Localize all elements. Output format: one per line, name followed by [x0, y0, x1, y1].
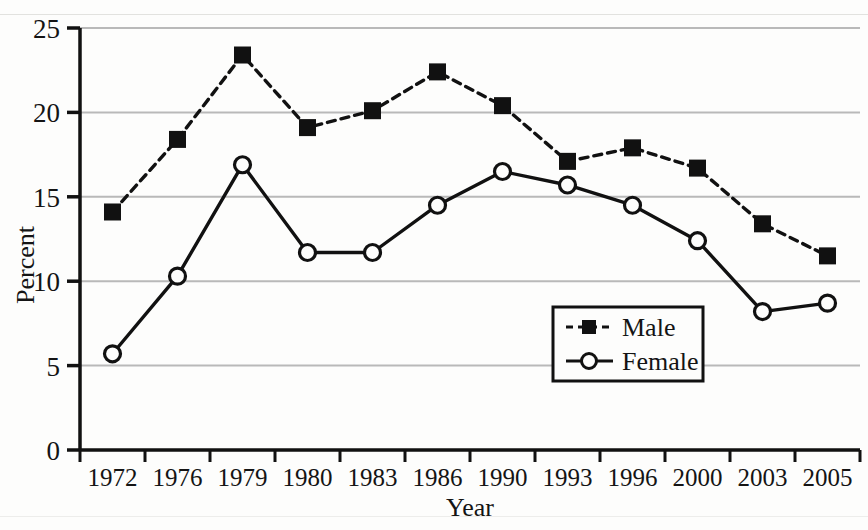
x-axis-title: Year — [446, 493, 494, 522]
x-tick-label: 1976 — [153, 464, 203, 491]
legend-female-marker — [582, 354, 597, 369]
gridlines-group — [80, 28, 860, 366]
data-point-male — [104, 203, 121, 220]
y-tick-label: 15 — [33, 183, 60, 213]
data-point-female — [625, 197, 641, 213]
y-tick-group — [67, 28, 80, 450]
series-line-female — [113, 165, 828, 354]
data-point-female — [170, 268, 186, 284]
y-tick-label: 0 — [47, 436, 61, 466]
series-line-male — [113, 55, 828, 256]
data-point-female — [690, 233, 706, 249]
x-tick-label: 2000 — [673, 464, 723, 491]
y-axis-title: Percent — [11, 225, 40, 304]
data-point-female — [300, 245, 316, 261]
data-point-male — [624, 139, 641, 156]
x-tick-label: 1990 — [478, 464, 528, 491]
data-point-male — [754, 215, 771, 232]
data-point-female — [365, 245, 381, 261]
data-point-male — [689, 160, 706, 177]
data-point-female — [495, 163, 511, 179]
x-tick-label: 1996 — [608, 464, 658, 491]
data-point-female — [235, 157, 251, 173]
data-point-male — [169, 131, 186, 148]
y-tick-label: 25 — [33, 14, 60, 44]
x-tick-label: 2005 — [803, 464, 853, 491]
x-tick-label-group: 1972197619791980198319861990199319962000… — [88, 464, 853, 491]
x-tick-label: 1979 — [218, 464, 268, 491]
data-point-male — [299, 119, 316, 136]
x-tick-label: 1972 — [88, 464, 138, 491]
data-point-female — [105, 346, 121, 362]
data-point-male — [234, 47, 251, 64]
data-point-male — [429, 63, 446, 80]
data-point-male — [364, 102, 381, 119]
chart-page: 0510152025 19721976197919801983198619901… — [0, 0, 868, 530]
x-tick-label: 1983 — [348, 464, 398, 491]
y-tick-label: 5 — [47, 352, 61, 382]
data-point-male — [494, 97, 511, 114]
data-point-male — [819, 247, 836, 264]
data-point-female — [560, 177, 576, 193]
legend-male-marker — [582, 320, 596, 334]
data-point-male — [559, 153, 576, 170]
x-tick-label: 1980 — [283, 464, 333, 491]
data-point-female — [430, 197, 446, 213]
legend-label-male: Male — [622, 313, 675, 342]
x-tick-label: 1986 — [413, 464, 463, 491]
chart-legend: Male Female — [553, 307, 703, 381]
x-tick-label: 2003 — [738, 464, 788, 491]
data-point-female — [755, 304, 771, 320]
line-chart: 0510152025 19721976197919801983198619901… — [0, 0, 868, 530]
data-point-female — [820, 295, 836, 311]
x-tick-group — [80, 450, 860, 462]
legend-label-female: Female — [622, 347, 699, 376]
x-tick-label: 1993 — [543, 464, 593, 491]
data-series-group — [104, 47, 836, 362]
y-tick-label: 20 — [33, 98, 60, 128]
